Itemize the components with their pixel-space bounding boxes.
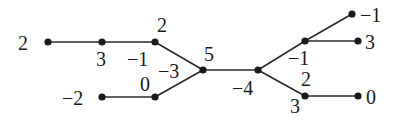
- tree-diagram: 232−15−3−20−4−1−13230: [0, 0, 400, 120]
- node-label-K-1: 3: [290, 95, 300, 117]
- node-label-L-0: 0: [366, 86, 376, 108]
- node-label-F-0: 0: [140, 73, 150, 95]
- labels: 232−15−3−20−4−1−13230: [18, 4, 381, 117]
- node-label-C-0: 2: [157, 14, 167, 36]
- node-label-G-0: −4: [232, 77, 253, 99]
- node-A: [44, 38, 51, 45]
- node-label-K-0: 2: [301, 68, 311, 90]
- node-H: [301, 37, 308, 44]
- node-G: [254, 66, 261, 73]
- node-label-I-0: −1: [360, 4, 381, 26]
- node-L: [354, 92, 361, 99]
- node-C: [151, 38, 158, 45]
- node-label-D-1: −3: [158, 60, 179, 82]
- nodes: [44, 10, 361, 100]
- node-B: [98, 38, 105, 45]
- edges: [48, 14, 358, 97]
- node-label-J-0: 3: [365, 31, 375, 53]
- diagram-svg: 232−15−3−20−4−1−13230: [0, 0, 400, 120]
- node-label-C-1: −1: [127, 48, 148, 70]
- node-F: [151, 93, 158, 100]
- node-label-H-0: −1: [288, 47, 309, 69]
- node-label-D-0: 5: [204, 43, 214, 65]
- node-label-E-0: −2: [62, 87, 83, 109]
- node-label-A-0: 2: [18, 32, 28, 54]
- node-label-B-0: 3: [96, 48, 106, 70]
- edge-H-I: [305, 14, 352, 41]
- node-K: [301, 92, 308, 99]
- edge-G-K: [258, 70, 305, 96]
- node-E: [98, 93, 105, 100]
- node-D: [199, 66, 206, 73]
- node-I: [348, 10, 355, 17]
- node-J: [354, 37, 361, 44]
